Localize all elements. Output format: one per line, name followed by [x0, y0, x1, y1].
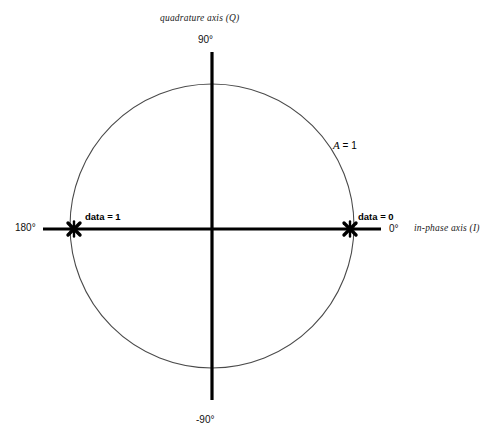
tick-label-90deg: 90°: [198, 35, 213, 45]
data-zero-label: data = 0: [358, 212, 394, 222]
amplitude-symbol: A: [333, 139, 340, 151]
quadrature-axis-label: quadrature axis (Q): [160, 14, 239, 24]
amplitude-label: A = 1: [333, 140, 357, 151]
amplitude-value: = 1: [343, 140, 357, 151]
data-one-label: data = 1: [85, 212, 121, 222]
diagram-canvas: [0, 0, 496, 436]
in-phase-axis-label: in-phase axis (I): [414, 224, 480, 234]
tick-label-minus-90deg: -90°: [196, 415, 214, 425]
bpsk-constellation-diagram: quadrature axis (Q) 90° -90° 180° 0° in-…: [0, 0, 496, 436]
tick-label-180deg: 180°: [15, 223, 36, 233]
tick-label-0deg: 0°: [389, 224, 399, 234]
